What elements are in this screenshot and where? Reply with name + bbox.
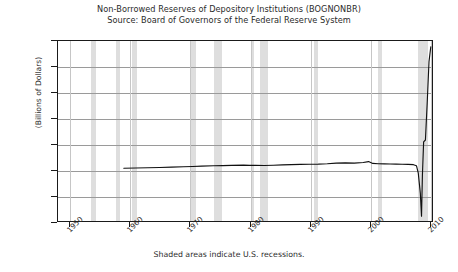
y-axis-tick-mark <box>51 92 57 93</box>
chart-title: Non-Borrowed Reserves of Depository Inst… <box>0 4 458 15</box>
chart-footnote: Shaded areas indicate U.S. recessions. <box>0 250 458 259</box>
data-series-line <box>58 41 432 221</box>
y-axis-label: (Billions of Dollars) <box>34 33 43 153</box>
y-axis-tick-mark <box>51 66 57 67</box>
y-axis-tick-mark <box>51 118 57 119</box>
chart-title-block: Non-Borrowed Reserves of Depository Inst… <box>0 4 458 26</box>
y-axis-tick-mark <box>51 144 57 145</box>
y-axis-tick-mark <box>51 40 57 41</box>
y-axis-tick-mark <box>51 222 57 223</box>
y-axis-tick-mark <box>51 170 57 171</box>
plot-area <box>57 40 433 222</box>
y-axis-tick-mark <box>51 196 57 197</box>
chart-figure: Non-Borrowed Reserves of Depository Inst… <box>0 0 458 272</box>
series-polyline <box>124 47 431 216</box>
chart-subtitle: Source: Board of Governors of the Federa… <box>0 15 458 26</box>
